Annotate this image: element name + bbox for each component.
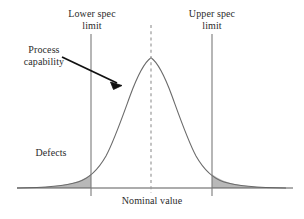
defects-label: Defects bbox=[22, 147, 80, 159]
process-capability-chart bbox=[0, 0, 304, 219]
nominal-value-label: Nominal value bbox=[106, 195, 198, 207]
process-capability-figure: Lower spec limit Upper spec limit Proces… bbox=[0, 0, 304, 219]
process-capability-label: Process capability bbox=[8, 44, 80, 67]
upper-spec-limit-label: Upper spec limit bbox=[175, 8, 249, 31]
lower-spec-limit-label: Lower spec limit bbox=[55, 8, 129, 31]
